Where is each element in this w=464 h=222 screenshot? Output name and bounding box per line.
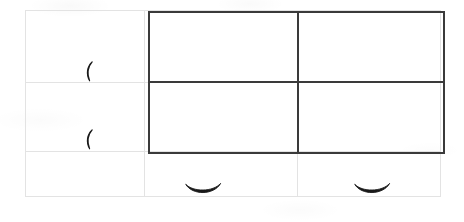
faint-grid-column-line-1	[144, 10, 145, 197]
paper-texture	[0, 0, 464, 222]
faint-grid-row-line-3	[25, 196, 441, 197]
bold-grid-column-line-0	[148, 11, 150, 154]
bold-grid-column-line-2	[443, 11, 445, 154]
worksheet-canvas: Scanned grid worksheet	[0, 0, 464, 222]
page-title: Scanned grid worksheet	[0, 0, 1, 1]
faint-grid-column-line-0	[25, 10, 26, 197]
smile-2-mark	[354, 182, 390, 196]
paren-1-mark	[84, 61, 94, 81]
paren-2-mark	[84, 129, 94, 149]
bold-grid-column-line-1	[297, 11, 299, 154]
smile-1-mark	[185, 182, 221, 196]
faint-grid-column-line-3	[440, 10, 441, 197]
